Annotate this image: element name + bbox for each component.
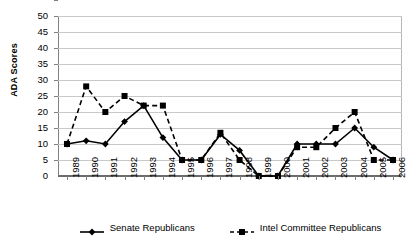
data-point-1989 [64,141,70,147]
diamond-marker-icon [79,223,105,233]
x-tick-1992 [125,176,126,180]
x-tick-2000 [278,176,279,180]
x-tick-label-1992: 1992 [129,157,139,178]
x-tick-label-1994: 1994 [167,157,177,178]
y-tick-30 [54,64,58,65]
y-tick-label-45: 45 [4,27,48,37]
data-point-2002 [313,144,319,150]
y-tick-label-5: 5 [4,155,48,165]
y-tick-label-35: 35 [4,59,48,69]
y-tick-25 [54,80,58,81]
x-tick-label-1990: 1990 [90,157,100,178]
x-tick-2005 [374,176,375,180]
series-layer [58,16,402,176]
y-tick-label-15: 15 [4,123,48,133]
y-tick-40 [54,32,58,33]
y-tick-label-25: 25 [4,91,48,101]
x-tick-label-2001: 2001 [301,157,311,178]
data-point-2005 [371,157,377,163]
y-axis-labels: 05101520253035404550 [0,16,52,176]
ada-scores-line-chart: ADA Scores 05101520253035404550 19891990… [0,0,418,240]
x-tick-1993 [144,176,145,180]
x-tick-1991 [105,176,106,180]
data-point-1990 [83,83,89,89]
x-tick-1996 [201,176,202,180]
x-tick-label-2000: 2000 [282,157,292,178]
x-tick-label-2005: 2005 [378,157,388,178]
y-tick-15 [54,112,58,113]
data-point-2004 [352,109,358,115]
x-tick-label-2002: 2002 [320,157,330,178]
y-tick-label-0: 0 [4,171,48,181]
data-point-2003 [332,125,338,131]
x-tick-2006 [393,176,394,180]
x-tick-label-1991: 1991 [109,157,119,178]
x-tick-2004 [355,176,356,180]
y-tick-label-10: 10 [4,139,48,149]
x-tick-1997 [220,176,221,180]
y-tick-5 [54,144,58,145]
x-tick-label-1999: 1999 [263,157,273,178]
x-tick-label-1989: 1989 [71,157,81,178]
y-tick-0 [54,160,58,161]
data-point-2001 [294,144,300,150]
data-point-1994 [160,103,166,109]
x-tick-label-1997: 1997 [224,157,234,178]
x-tick-1998 [240,176,241,180]
x-tick-2001 [297,176,298,180]
x-tick-label-1995: 1995 [186,157,196,178]
x-axis-labels: 1989199019911992199319941995199619971998… [58,176,402,218]
x-tick-1990 [86,176,87,180]
chart-legend: Senate RepublicansIntel Committee Republ… [58,218,402,238]
legend-label: Intel Committee Republicans [260,223,381,233]
data-point-1990 [83,137,90,144]
data-point-1998 [237,157,243,163]
x-tick-1995 [182,176,183,180]
x-tick-label-2004: 2004 [359,157,369,178]
y-tick-10 [54,128,58,129]
y-tick-label-40: 40 [4,43,48,53]
x-tick-label-2003: 2003 [339,157,349,178]
legend-item-2[interactable]: Intel Committee Republicans [229,223,381,233]
y-tick-35 [54,48,58,49]
x-tick-label-1996: 1996 [205,157,215,178]
data-point-1991 [102,109,108,115]
x-tick-2002 [316,176,317,180]
y-tick-45 [54,16,58,17]
y-tick-20 [54,96,58,97]
square-marker-icon [229,223,255,233]
y-tick-label-20: 20 [4,107,48,117]
plot-area [58,16,402,176]
x-tick-1999 [259,176,260,180]
y-tick-50 [54,0,58,1]
y-tick-label-30: 30 [4,75,48,85]
x-tick-label-1993: 1993 [148,157,158,178]
data-point-1993 [141,103,147,109]
data-point-1992 [122,93,128,99]
data-point-1997 [217,130,223,136]
x-tick-1994 [163,176,164,180]
y-tick-label-50: 50 [4,11,48,21]
x-tick-label-2006: 2006 [397,157,407,178]
x-tick-2003 [335,176,336,180]
x-tick-label-1998: 1998 [244,157,254,178]
legend-label: Senate Republicans [110,223,195,233]
legend-item-1[interactable]: Senate Republicans [79,223,195,233]
x-tick-1989 [67,176,68,180]
